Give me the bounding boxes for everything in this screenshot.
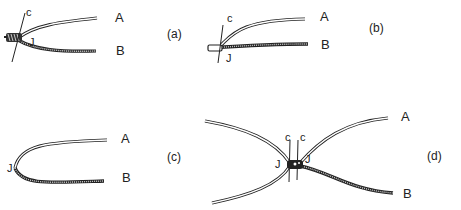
label-a: A [401, 109, 410, 124]
label-b: B [403, 186, 412, 201]
panel-d: c c J J A B (d) [205, 109, 442, 203]
label-b: B [321, 37, 330, 52]
label-j2: J [305, 153, 311, 165]
label-a: A [320, 9, 329, 24]
caption-a: (a) [167, 27, 182, 41]
panel-c: J A B (c) [7, 131, 181, 185]
panel-b: c J A B (b) [208, 9, 384, 64]
label-c1: c [285, 131, 291, 143]
caption-d: (d) [427, 149, 442, 163]
label-j: J [226, 52, 232, 64]
caption-b: (b) [369, 21, 384, 35]
panel-a: c J A B (a) [4, 6, 182, 62]
label-a: A [121, 131, 130, 146]
label-b: B [122, 170, 131, 185]
label-c: c [26, 6, 32, 18]
cut-line-c2 [297, 140, 298, 180]
cut-line-c1 [289, 140, 290, 182]
label-c2: c [300, 131, 306, 143]
label-j1: J [275, 158, 281, 170]
label-c: c [227, 12, 233, 24]
label-b: B [116, 43, 125, 58]
label-j: J [29, 36, 35, 48]
label-j: J [7, 162, 13, 174]
fiber-splice-diagram: c J A B (a) c J A B (b) J A B (c) [0, 0, 461, 210]
label-a: A [115, 10, 124, 25]
caption-c: (c) [167, 150, 181, 164]
